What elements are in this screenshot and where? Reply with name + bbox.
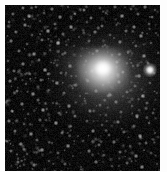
sky-frame bbox=[5, 5, 160, 171]
comet-image-viewport bbox=[0, 0, 167, 172]
sensor-noise-overlay bbox=[5, 5, 160, 171]
